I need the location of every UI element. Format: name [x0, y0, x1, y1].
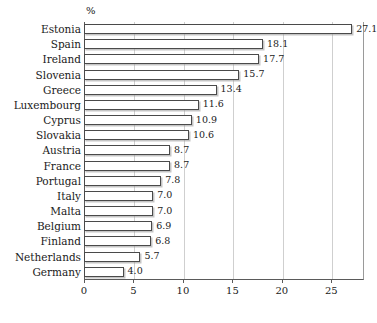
category-label-estonia: Estonia — [0, 22, 81, 37]
category-label-france: France — [0, 159, 81, 174]
category-label-austria: Austria — [0, 143, 81, 158]
bar-row: 18.1 — [84, 37, 364, 52]
bar-row: 10.6 — [84, 128, 364, 143]
bar-value-label: 17.7 — [263, 52, 284, 66]
tick-label-5: 5 — [130, 284, 136, 297]
bar-value-label: 7.8 — [165, 173, 180, 187]
category-label-spain: Spain — [0, 37, 81, 52]
tick-mark-5 — [133, 280, 134, 283]
tick-mark-25 — [331, 280, 332, 283]
bar-value-label: 5.7 — [144, 249, 159, 263]
bar — [84, 191, 153, 201]
bar-row: 8.7 — [84, 143, 364, 158]
category-label-slovakia: Slovakia — [0, 128, 81, 143]
bar-value-label: 6.9 — [156, 219, 171, 233]
value-axis: 0510152025 — [84, 280, 364, 304]
bar-row: 6.9 — [84, 219, 364, 234]
category-label-luxembourg: Luxembourg — [0, 98, 81, 113]
bar-value-label: 10.9 — [196, 113, 217, 127]
bar — [84, 206, 153, 216]
category-label-finland: Finland — [0, 234, 81, 249]
bar-row: 7.8 — [84, 174, 364, 189]
tick-label-0: 0 — [81, 284, 87, 297]
axis-unit-label: % — [86, 5, 96, 17]
category-label-italy: Italy — [0, 189, 81, 204]
tick-mark-15 — [232, 280, 233, 283]
bar — [84, 130, 189, 140]
bar-value-label: 27.1 — [356, 22, 377, 36]
category-label-ireland: Ireland — [0, 52, 81, 67]
bar — [84, 145, 170, 155]
bar-value-label: 6.8 — [155, 234, 170, 248]
tick-label-25: 25 — [325, 284, 338, 297]
category-label-cyprus: Cyprus — [0, 113, 81, 128]
bar-row: 7.0 — [84, 204, 364, 219]
category-axis-labels: EstoniaSpainIrelandSloveniaGreeceLuxembo… — [0, 22, 81, 280]
bar — [84, 54, 259, 64]
bar — [84, 267, 124, 277]
bar-value-label: 11.6 — [203, 97, 224, 111]
category-label-portugal: Portugal — [0, 174, 81, 189]
bar — [84, 100, 199, 110]
bar-row: 6.8 — [84, 234, 364, 249]
tick-label-20: 20 — [276, 284, 289, 297]
bar-row: 5.7 — [84, 250, 364, 265]
bar-value-label: 13.4 — [221, 82, 242, 96]
bar-value-label: 15.7 — [243, 67, 264, 81]
bars-container: 27.118.117.715.713.411.610.910.68.78.77.… — [84, 22, 364, 280]
bar-value-label: 7.0 — [157, 188, 172, 202]
category-label-slovenia: Slovenia — [0, 68, 81, 83]
bar-row: 17.7 — [84, 52, 364, 67]
bar-value-label: 7.0 — [157, 204, 172, 218]
bar — [84, 24, 352, 34]
bar-row: 13.4 — [84, 83, 364, 98]
tick-label-10: 10 — [177, 284, 190, 297]
bar-value-label: 18.1 — [267, 37, 288, 51]
bar-row: 10.9 — [84, 113, 364, 128]
bar — [84, 39, 263, 49]
bar — [84, 221, 152, 231]
tick-label-15: 15 — [226, 284, 239, 297]
bar-row: 27.1 — [84, 22, 364, 37]
bar — [84, 176, 161, 186]
category-label-germany: Germany — [0, 265, 81, 280]
bar-row: 4.0 — [84, 265, 364, 280]
category-label-belgium: Belgium — [0, 219, 81, 234]
category-label-greece: Greece — [0, 83, 81, 98]
bar — [84, 115, 192, 125]
category-label-netherlands: Netherlands — [0, 250, 81, 265]
category-label-malta: Malta — [0, 204, 81, 219]
bar-row: 7.0 — [84, 189, 364, 204]
bar-value-label: 4.0 — [128, 264, 143, 278]
bar — [84, 161, 170, 171]
bar — [84, 236, 151, 246]
bar-row: 15.7 — [84, 68, 364, 83]
bar — [84, 252, 140, 262]
bar-value-label: 8.7 — [174, 143, 189, 157]
bar-row: 8.7 — [84, 159, 364, 174]
tick-mark-0 — [84, 280, 85, 283]
bar-value-label: 10.6 — [193, 128, 214, 142]
bar-row: 11.6 — [84, 98, 364, 113]
bar — [84, 85, 217, 95]
bar-value-label: 8.7 — [174, 158, 189, 172]
tick-mark-20 — [282, 280, 283, 283]
tick-mark-10 — [183, 280, 184, 283]
bar — [84, 70, 239, 80]
